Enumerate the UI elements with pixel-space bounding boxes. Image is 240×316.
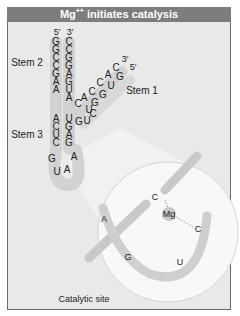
- nucleotide: U: [107, 80, 114, 91]
- stem3-label: Stem 3: [11, 129, 43, 140]
- ribozyme-diagram: 5′ 3′ G G C C G A A A C U C C C G G A G …: [0, 0, 240, 316]
- nucleotide: A: [64, 164, 71, 175]
- catalytic-site-label: Catalytic site: [58, 294, 109, 304]
- nucleotide: C: [52, 137, 59, 148]
- nucleotide: C: [96, 77, 103, 88]
- nucleotide: G: [116, 71, 124, 82]
- stem1-label: Stem 1: [126, 85, 158, 96]
- nucleotide-c-top: C: [152, 192, 159, 202]
- nucleotide: C: [88, 86, 95, 97]
- nucleotide: G: [99, 89, 107, 100]
- nucleotide-c-right: C: [195, 224, 202, 234]
- nucleotide-a: A: [101, 214, 107, 224]
- mg-label: Mg: [163, 209, 176, 219]
- nucleotide: A: [53, 84, 60, 95]
- nucleotide: G: [48, 153, 56, 164]
- nucleotide: A: [81, 92, 88, 103]
- nucleotide: A: [71, 151, 78, 162]
- stem1-5prime-label: 5′: [130, 62, 137, 72]
- stem1-3prime-label: 3′: [122, 54, 129, 64]
- nucleotide-u: U: [177, 257, 184, 267]
- nucleotide: A: [66, 92, 73, 103]
- nucleotide-g: G: [124, 252, 131, 262]
- nucleotide: A: [105, 69, 112, 80]
- nucleotide: G: [75, 116, 83, 127]
- nucleotide: U: [53, 166, 60, 177]
- nucleotide: G: [65, 137, 73, 148]
- stem2-label: Stem 2: [11, 57, 43, 68]
- nucleotide: G: [91, 97, 99, 108]
- nucleotide: C: [89, 108, 96, 119]
